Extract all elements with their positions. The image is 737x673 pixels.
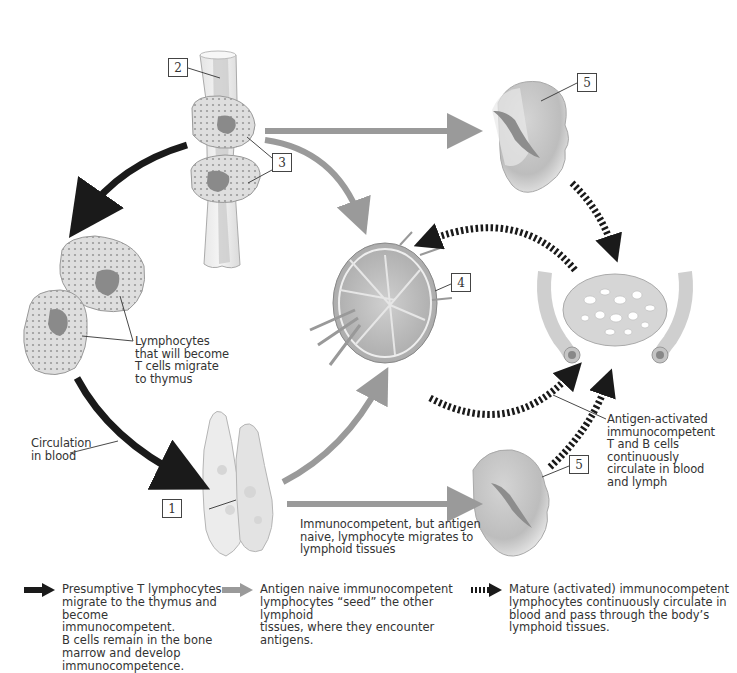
arrow-marrow-to-lymph-node xyxy=(265,140,360,218)
number-label-5-upper: 5 xyxy=(577,73,597,92)
number-label-3: 3 xyxy=(272,153,292,172)
spleen-upper xyxy=(492,81,569,192)
thymus xyxy=(203,411,273,556)
spleen-lower xyxy=(473,450,549,556)
legend-item-dashed-arrow: Mature (activated) immunocompetent lymph… xyxy=(471,583,731,634)
arrow-lymph-node-to-vessels xyxy=(430,375,570,414)
legend-text: Mature (activated) immunocompetent lymph… xyxy=(509,583,731,634)
number-label-1: 1 xyxy=(162,499,182,518)
arrow-vessels-to-lymph-node xyxy=(430,228,575,270)
number-label-5-lower: 5 xyxy=(569,455,589,474)
arrow-lymphocytes-to-thymus xyxy=(77,378,185,477)
annotation-circulation: Circulation in blood xyxy=(31,437,91,462)
arrow-thymus-to-lymph-node xyxy=(283,383,380,482)
black-arrow-icon xyxy=(24,583,56,597)
arrow-marrow-to-lymphocytes xyxy=(85,145,187,215)
legend-text: Antigen naive immunocompetent lymphocyte… xyxy=(260,583,462,647)
lymphocyte-cell xyxy=(24,290,88,375)
arrow-spleen-to-vessels xyxy=(572,183,612,246)
legend-text: Presumptive T lymphocytes migrate to the… xyxy=(62,583,224,673)
gray-arrow-icon xyxy=(222,583,254,597)
number-label-2: 2 xyxy=(168,58,188,77)
lymphocyte-cell xyxy=(191,155,260,202)
lymph-node xyxy=(310,232,452,365)
legend-item-gray-arrow: Antigen naive immunocompetent lymphocyte… xyxy=(222,583,462,647)
lymph-vessel-network xyxy=(544,272,686,363)
annotation-antigen-activated: Antigen-activated immunocompetent T and … xyxy=(607,413,715,488)
number-label-4: 4 xyxy=(451,273,471,292)
annotation-immunocompetent-naive: Immunocompetent, but antigen naive, lymp… xyxy=(300,518,481,556)
lymphocyte-cell xyxy=(192,96,255,148)
annotation-lymphocytes-migrate: Lymphocytes that will become T cells mig… xyxy=(135,335,229,385)
dashed-arrow-icon xyxy=(471,583,503,597)
legend-item-black-arrow: Presumptive T lymphocytes migrate to the… xyxy=(24,583,224,673)
